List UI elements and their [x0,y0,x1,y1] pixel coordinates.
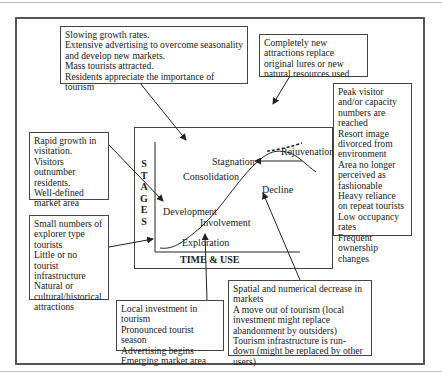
exploration-arrow [109,239,153,247]
consolidation-annotation-box: Slowing growth rates. Extensive advertis… [60,26,248,84]
involvement-annotation-box: Local investment in tourism Pronounced t… [116,300,224,351]
y-axis-letter: G [138,193,150,205]
development-annotation-box: Rapid growth in visitation. Visitors out… [29,132,109,200]
exploration-annotation-box: Small numbers of explorer type tourists … [29,215,109,300]
y-axis-label: S T A G E S [138,158,150,227]
y-axis-letter: A [138,181,150,193]
stage-label-rejuvenation: Rejuvenation [281,146,334,157]
decline-annotation-box: Spatial and numerical decrease in market… [228,280,372,356]
stage-label-consolidation: Consolidation [183,171,239,182]
stage-label-involvement: Involvement [200,217,251,228]
consolidation-arrow [140,83,186,140]
stage-label-development: Development [163,206,217,217]
y-axis-letter: S [138,216,150,228]
y-axis-letter: E [138,204,150,216]
y-axis-letter: S [138,158,150,170]
rejuvenation-arrow [273,76,290,104]
decline-arrow [263,193,300,280]
x-axis-label: TIME & USE [180,254,239,265]
rejuvenation-annotation-box: Completely new attractions replace origi… [259,34,368,77]
stagnation-annotation-box: Peak visitor and/or capacity numbers are… [333,83,412,236]
stage-label-exploration: Exploration [182,237,229,248]
y-axis-letter: T [138,170,150,182]
stage-label-decline: Decline [262,184,293,195]
stage-label-stagnation: Stagnation [212,156,255,167]
